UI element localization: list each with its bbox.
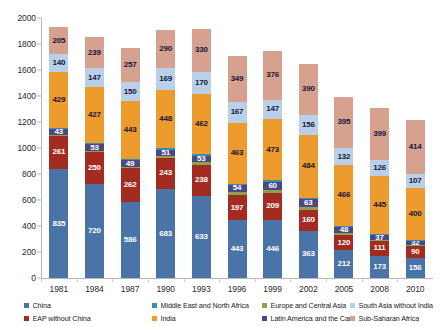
bar-segment-value: 111 [374,244,386,252]
y-axis-tick-label: 800 [22,169,36,179]
bar-stack: 683243105112448169290 [156,30,175,278]
bar-segment-value: 238 [195,176,208,184]
bar-segment: 835 [49,169,68,278]
legend-color-swatch [262,316,267,321]
x-axis-line [41,278,433,279]
bar-segment: 53 [85,144,104,151]
legend-item[interactable]: India [152,312,262,325]
bar-stack: 446209266011473147376 [263,51,282,278]
legend-item[interactable]: Sub-Saharan Africa [350,312,436,325]
bar-segment-value: 140 [52,59,65,67]
bar-segment-value: 395 [338,118,351,126]
bar-segment-value: 132 [338,153,351,161]
bar-segment-value: 53 [90,144,99,152]
legend-item-label: Sub-Saharan Africa [359,314,420,323]
y-axis-tick-label: 1400 [17,91,36,101]
x-axis-tick-label: 1990 [156,284,175,294]
bar-segment-value: 250 [88,164,101,172]
bar-segment: 586 [121,202,140,278]
bar-segment: 9 [370,234,389,235]
bar-segment-value: 49 [126,160,135,168]
legend-item-label: Middle East and North Africa [161,301,249,310]
chart-legend: ChinaMiddle East and North AfricaEurope … [24,299,436,325]
bar-segment: 51 [156,150,175,157]
x-axis-tick-mark [219,278,220,282]
bar-segment-value: 48 [340,226,349,234]
x-axis-tick-label: 1981 [50,284,69,294]
bar-segment-value: 400 [409,210,422,218]
legend-item-label: Latin America and the Caribbean [271,314,351,323]
legend-item[interactable]: Latin America and the Caribbean [262,312,350,325]
bar-segment: 446 [263,220,282,278]
y-axis-tick-label: 2000 [17,13,36,23]
bar-segment-value: 167 [231,108,244,116]
bar-segment: 390 [299,64,318,115]
bar-segment-value: 399 [373,130,386,138]
legend-color-swatch [24,316,29,321]
bar-segment-value: 90 [411,248,420,256]
bar-segment: 126 [370,160,389,176]
bar-stack: 58626284912443150257 [121,48,140,278]
bar-segment: 205 [49,27,68,54]
bar-segment-value: 262 [124,181,137,189]
bar-segment-value: 445 [373,201,386,209]
y-axis-tick-label: 1000 [17,143,36,153]
x-axis-tick-label: 1999 [263,284,282,294]
bar-segment-value: 156 [302,121,315,129]
bar-segment-value: 349 [231,75,244,83]
y-axis-tick-label: 200 [22,247,36,257]
legend-color-swatch [152,316,157,321]
legend-item[interactable]: Europe and Central Asia [262,299,350,312]
bar-segment-value: 60 [268,182,277,190]
bar-segment: 466 [334,165,353,226]
bar-segment-value: 390 [302,85,315,93]
bar-segment: 290 [156,30,175,68]
x-axis-tick-mark [326,278,327,282]
legend-color-swatch [262,303,267,308]
x-axis-tick-mark [112,278,113,282]
bar-stack: 156907328400107414 [406,120,425,278]
legend-color-swatch [152,303,157,308]
bar-segment-value: 169 [159,75,172,83]
bar-segment: 443 [228,220,247,278]
plot-area: 0200400600800100012001400160018002000 83… [41,18,433,278]
bar-segment: 243 [156,158,175,190]
legend-item[interactable]: Middle East and North Africa [152,299,262,312]
bar-segment: 349 [228,56,247,101]
bar-segment: 212 [334,250,353,278]
bar-segment-value: 835 [52,220,65,228]
bar-segment-value: 173 [373,263,386,271]
x-axis-tick-mark [41,278,42,282]
bar-segment-value: 197 [231,204,244,212]
bar-series-container: 8352615431042914020572025065311427147239… [41,18,433,278]
bar-segment: 32 [406,241,425,245]
legend-item-label: India [161,314,176,323]
legend-item[interactable]: EAP without China [24,312,152,325]
legend-item[interactable]: China [24,299,152,312]
legend-item-label: South Asia without India [359,301,433,310]
bar-segment: 132 [334,148,353,165]
legend-color-swatch [350,303,355,308]
bar-segment: 140 [49,54,68,72]
bar-segment-value: 120 [338,239,351,247]
bar-segment: 427 [85,87,104,143]
bar-segment: 48 [334,227,353,233]
y-axis-tick-label: 0 [31,273,36,283]
bar-segment: 90 [406,246,425,258]
bar-segment: 376 [263,51,282,100]
bar-segment-value: 463 [231,149,244,157]
x-axis-tick-mark [184,278,185,282]
bar-segment: 484 [299,135,318,198]
x-axis-tick-label: 1993 [192,284,211,294]
bar-segment-value: 448 [159,115,172,123]
bar-segment-value: 376 [266,71,279,79]
legend-item-label: China [33,301,51,310]
x-axis-tick-label: 2002 [299,284,318,294]
bar-segment: 250 [85,152,104,185]
bar-segment: 11 [85,143,104,144]
y-axis-tick-label: 400 [22,221,36,231]
legend-item[interactable]: South Asia without India [350,299,436,312]
bar-segment-value: 443 [231,245,244,253]
x-axis-tick-label: 1996 [228,284,247,294]
bar-segment: 43 [49,129,68,135]
